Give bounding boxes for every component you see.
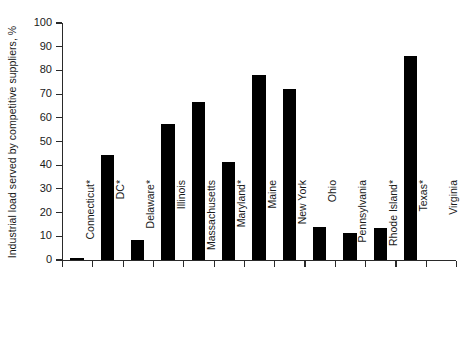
y-tick-label-wrap: 70	[0, 88, 52, 99]
y-tick-label: 40	[0, 159, 52, 170]
x-axis-labels: Connecticut*DC*Delaware*IllinoisMassachu…	[62, 266, 456, 352]
chart-figure: Industrial load served by competitive su…	[0, 0, 472, 352]
y-tick-label-wrap: 0	[0, 254, 52, 265]
y-tick-label: 80	[0, 64, 52, 75]
x-tick-label: Illinois	[174, 180, 188, 266]
y-tick-label: 0	[0, 254, 52, 265]
x-tick-label: Ohio	[325, 180, 339, 266]
x-tick-label: Rhode Island*	[386, 180, 400, 266]
y-tick-label: 100	[0, 17, 52, 28]
bar	[374, 228, 387, 260]
x-tick-label: Maine	[265, 180, 279, 266]
x-tick-label: Texas*	[416, 180, 430, 266]
y-tick-label-wrap: 90	[0, 41, 52, 52]
y-tick-label-wrap: 100	[0, 17, 52, 28]
x-tick-label: Maryland*	[234, 180, 248, 266]
y-tick-label-wrap: 20	[0, 207, 52, 218]
y-tick-label: 70	[0, 88, 52, 99]
bar	[252, 75, 265, 260]
y-tick-label-wrap: 50	[0, 136, 52, 147]
bar	[70, 258, 83, 260]
y-tick-label: 60	[0, 112, 52, 123]
y-tick-label: 30	[0, 183, 52, 194]
bar	[283, 89, 296, 260]
y-tick-label-wrap: 80	[0, 64, 52, 75]
bar	[161, 124, 174, 260]
y-tick-label: 20	[0, 207, 52, 218]
x-tick-label: Pennsylvania	[355, 180, 369, 266]
y-tick-label-wrap: 10	[0, 230, 52, 241]
x-tick-label: New York	[295, 180, 309, 266]
y-tick-label: 50	[0, 136, 52, 147]
y-tick-label-wrap: 60	[0, 112, 52, 123]
x-tick-label: Connecticut*	[83, 180, 97, 266]
y-tick-label: 10	[0, 230, 52, 241]
x-tick-label: Virginia	[446, 180, 460, 266]
y-tick-label-wrap: 40	[0, 159, 52, 170]
x-tick-label: Delaware*	[143, 180, 157, 266]
x-tick-label: DC*	[113, 180, 127, 266]
y-tick-label: 90	[0, 41, 52, 52]
y-tick-label-wrap: 30	[0, 183, 52, 194]
x-tick-label: Massachusetts	[204, 180, 218, 266]
